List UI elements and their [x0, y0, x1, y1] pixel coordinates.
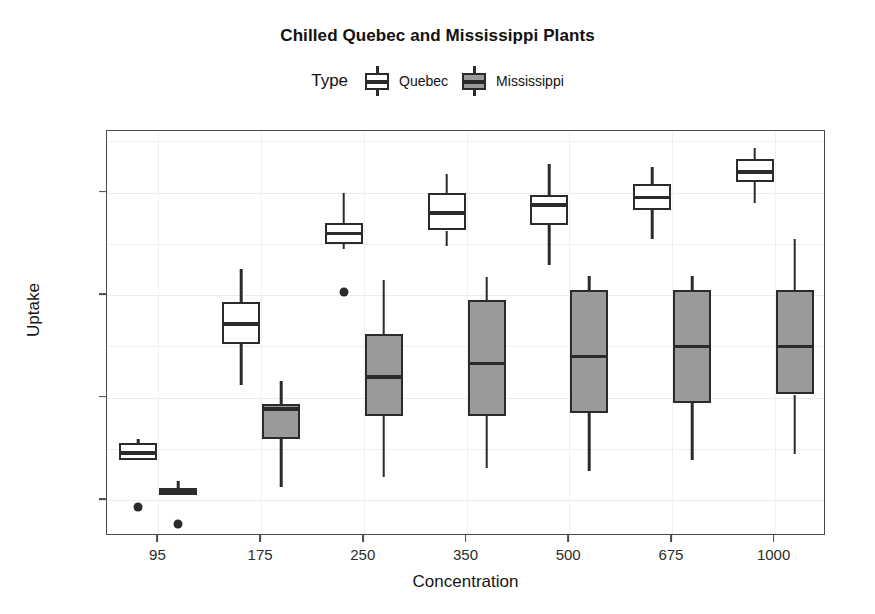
- legend-label-quebec: Quebec: [399, 73, 448, 89]
- y-axis-title: Uptake: [24, 250, 44, 370]
- boxplot-chart: Chilled Quebec and Mississippi Plants Ty…: [0, 0, 875, 614]
- legend-entry-mississippi[interactable]: Mississippi: [461, 66, 564, 96]
- x-tick-label: 675: [658, 546, 683, 563]
- median-line: [776, 345, 814, 349]
- y-tick-mark: [99, 191, 106, 193]
- x-tick-mark: [465, 535, 467, 542]
- box-mississippi-1000[interactable]: [107, 131, 825, 534]
- box-rect: [776, 290, 814, 395]
- x-tick-label: 95: [149, 546, 166, 563]
- legend: Type Quebec Mississippi: [0, 66, 875, 96]
- whisker-lower: [793, 395, 796, 455]
- y-tick-mark: [99, 498, 106, 500]
- y-tick-mark: [99, 293, 106, 295]
- legend-label-mississippi: Mississippi: [496, 73, 564, 89]
- x-tick-mark: [567, 535, 569, 542]
- legend-key-quebec-icon: [364, 66, 390, 96]
- legend-entry-quebec[interactable]: Quebec: [364, 66, 448, 96]
- x-tick-mark: [259, 535, 261, 542]
- chart-title: Chilled Quebec and Mississippi Plants: [0, 26, 875, 46]
- x-tick-label: 500: [556, 546, 581, 563]
- x-tick-mark: [670, 535, 672, 542]
- x-tick-label: 350: [453, 546, 478, 563]
- x-tick-label: 1000: [757, 546, 790, 563]
- whisker-upper: [793, 239, 796, 290]
- legend-key-mississippi-icon: [461, 66, 487, 96]
- x-tick-mark: [362, 535, 364, 542]
- x-tick-label: 250: [350, 546, 375, 563]
- plot-panel: [106, 130, 825, 535]
- y-tick-mark: [99, 396, 106, 398]
- x-axis-title: Concentration: [106, 572, 825, 592]
- legend-title: Type: [311, 71, 348, 91]
- x-tick-label: 175: [248, 546, 273, 563]
- x-tick-mark: [773, 535, 775, 542]
- x-tick-mark: [156, 535, 158, 542]
